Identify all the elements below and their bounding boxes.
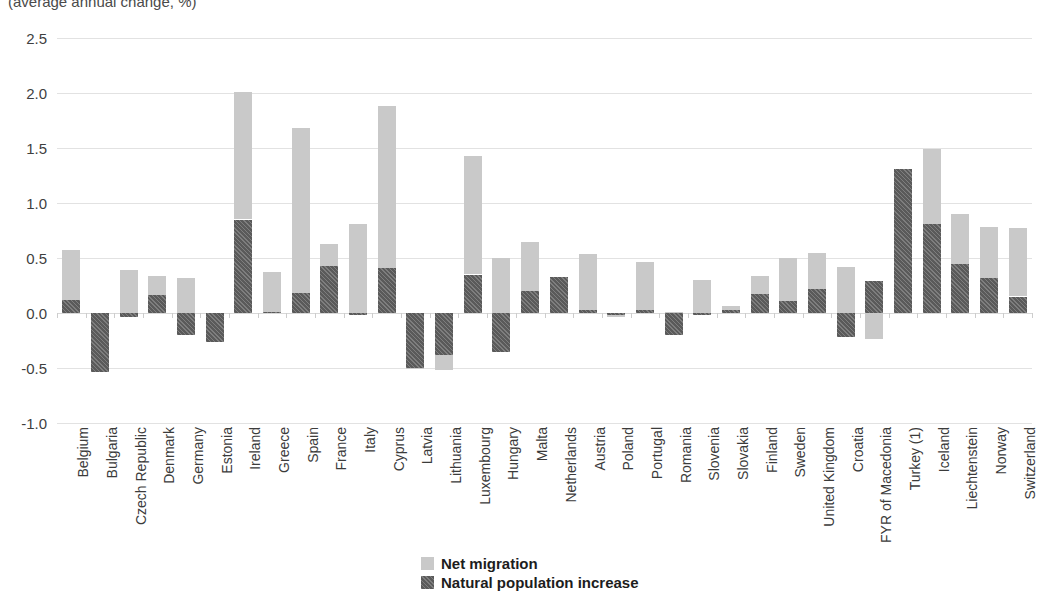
bar-group <box>607 38 625 423</box>
bar-segment-net-migration <box>492 258 510 313</box>
bar-group <box>837 38 855 423</box>
bar-group <box>464 38 482 423</box>
bar-segment-natural-increase <box>349 313 367 315</box>
bar-group <box>521 38 539 423</box>
plot-area <box>57 38 1032 423</box>
y-axis-tick-label: 2.0 <box>26 85 47 102</box>
bar-group <box>406 38 424 423</box>
x-axis-label: FYR of Macedonia <box>879 427 893 543</box>
x-axis-tickmark <box>573 313 574 318</box>
x-axis-label: Sweden <box>793 427 807 478</box>
x-axis-label: Slovakia <box>736 427 750 480</box>
bar-segment-natural-increase <box>521 291 539 313</box>
bar-segment-net-migration <box>607 315 625 317</box>
bar-group <box>894 38 912 423</box>
x-axis-tickmark <box>631 313 632 318</box>
x-axis-tickmark <box>114 313 115 318</box>
bar-group <box>808 38 826 423</box>
y-axis-tick-label: 1.0 <box>26 195 47 212</box>
bar-segment-net-migration <box>120 270 138 313</box>
bar-segment-net-migration <box>579 254 597 310</box>
x-axis-label: Estonia <box>220 427 234 474</box>
bar-group <box>779 38 797 423</box>
x-axis-tickmark <box>401 313 402 318</box>
bar-series <box>57 38 1032 423</box>
bar-segment-net-migration <box>378 106 396 268</box>
bar-group <box>751 38 769 423</box>
bar-segment-natural-increase <box>951 264 969 314</box>
x-axis-tickmark <box>659 313 660 318</box>
bar-segment-natural-increase <box>980 278 998 313</box>
y-axis-tick-label: 1.5 <box>26 140 47 157</box>
x-axis-tickmark <box>229 313 230 318</box>
bar-group <box>722 38 740 423</box>
y-axis-tick-label: 0.5 <box>26 250 47 267</box>
x-axis-label: Latvia <box>420 427 434 464</box>
bar-group <box>579 38 597 423</box>
bar-segment-net-migration <box>349 224 367 313</box>
x-axis-tickmark <box>803 313 804 318</box>
bar-segment-natural-increase <box>779 301 797 313</box>
x-axis-tickmark <box>200 313 201 318</box>
x-axis-label: Czech Republic <box>134 427 148 525</box>
x-axis-label: Italy <box>363 427 377 453</box>
y-axis-labels: 2.52.01.51.00.50.0-0.5-1.0 <box>0 38 57 423</box>
bar-group <box>62 38 80 423</box>
x-axis-label: Malta <box>535 427 549 461</box>
bar-segment-net-migration <box>177 278 195 313</box>
bar-group <box>177 38 195 423</box>
x-axis-label: Austria <box>593 427 607 471</box>
bar-segment-natural-increase <box>263 312 281 313</box>
x-axis-label: Belgium <box>76 427 90 478</box>
bar-segment-natural-increase <box>693 313 711 315</box>
x-axis-label: France <box>334 427 348 471</box>
bar-segment-net-migration <box>234 92 252 220</box>
bar-segment-net-migration <box>665 312 683 313</box>
bar-segment-net-migration <box>406 368 424 369</box>
x-axis-tickmark <box>487 313 488 318</box>
bar-segment-natural-increase <box>234 220 252 314</box>
bar-segment-net-migration <box>923 149 941 224</box>
x-axis-tickmark <box>315 313 316 318</box>
population-change-chart: (average annual change, %) 2.52.01.51.00… <box>0 0 1048 616</box>
bar-group <box>263 38 281 423</box>
bar-group <box>665 38 683 423</box>
bar-segment-natural-increase <box>435 313 453 355</box>
bar-segment-net-migration <box>980 227 998 278</box>
x-axis-label: Hungary <box>506 427 520 480</box>
legend-label-natural-increase: Natural population increase <box>441 574 639 591</box>
x-axis-tickmark <box>774 313 775 318</box>
bar-group <box>91 38 109 423</box>
bar-segment-natural-increase <box>722 310 740 313</box>
x-axis-tickmark <box>57 313 58 318</box>
legend-item-natural-increase: Natural population increase <box>421 573 639 592</box>
x-axis-tickmark <box>831 313 832 318</box>
bar-group <box>693 38 711 423</box>
bar-group <box>865 38 883 423</box>
bar-segment-net-migration <box>292 128 310 293</box>
x-axis-label: Romania <box>679 427 693 483</box>
x-axis-tickmark <box>86 313 87 318</box>
x-axis-tickmark <box>860 313 861 318</box>
bar-group <box>492 38 510 423</box>
bar-segment-natural-increase <box>406 313 424 368</box>
x-axis-tickmark <box>946 313 947 318</box>
chart-legend: Net migration Natural population increas… <box>421 554 639 592</box>
bar-segment-natural-increase <box>636 310 654 313</box>
bar-group <box>550 38 568 423</box>
bar-segment-natural-increase <box>492 313 510 352</box>
bar-segment-net-migration <box>779 258 797 301</box>
chart-subtitle: (average annual change, %) <box>8 0 196 10</box>
x-axis-label: Poland <box>621 427 635 471</box>
bar-group <box>980 38 998 423</box>
legend-label-net-migration: Net migration <box>441 555 538 572</box>
x-axis-tickmark <box>143 313 144 318</box>
bar-segment-net-migration <box>808 253 826 289</box>
x-axis-label: Luxembourg <box>478 427 492 505</box>
bar-segment-net-migration <box>693 280 711 313</box>
x-axis-label: Denmark <box>162 427 176 484</box>
bar-segment-net-migration <box>837 267 855 313</box>
bar-segment-net-migration <box>636 262 654 309</box>
x-axis-label: United Kingdom <box>822 427 836 527</box>
bar-segment-natural-increase <box>751 294 769 313</box>
